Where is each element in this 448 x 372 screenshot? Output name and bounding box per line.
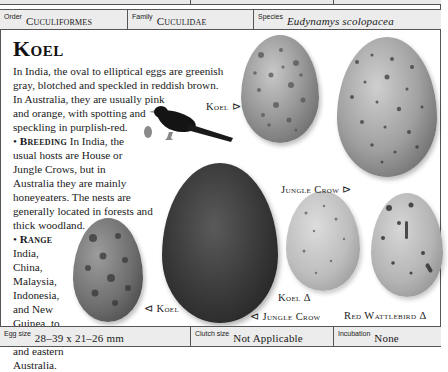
- speckle-pattern: [241, 35, 319, 143]
- speckle-pattern: [337, 37, 437, 177]
- koel-egg-bottom: [286, 191, 360, 291]
- species-label: Species: [258, 13, 283, 20]
- order-label: Order: [4, 13, 22, 20]
- speckle-pattern: [286, 191, 360, 291]
- koel-egg-top: [241, 35, 319, 143]
- text-line: gray, blotched and speckled in reddish b…: [13, 78, 273, 92]
- divider: [190, 0, 191, 5]
- breeding-heading: Breeding: [20, 135, 67, 147]
- label-koel-bottom: Koel Δ: [278, 292, 311, 303]
- label-jungle-crow-top: Jungle Crow ⊳: [281, 183, 352, 195]
- label-koel-top: Koel ⊳: [206, 100, 241, 112]
- page-title: Koel: [13, 36, 64, 62]
- order-cell: Order Cuculiformes: [0, 10, 127, 29]
- red-wattlebird-egg: [371, 193, 443, 297]
- jungle-crow-egg-top: [337, 37, 437, 177]
- clutch-size-cell: Clutch size Not Applicable: [190, 327, 333, 346]
- clutch-size-label: Clutch size: [195, 330, 229, 337]
- egg-size-label: Egg size: [4, 330, 31, 337]
- range-heading: Range: [20, 233, 53, 245]
- egg-size-value: 28–39 x 21–26 mm: [35, 332, 124, 344]
- divider: [333, 0, 334, 5]
- species-value: Eudynamys scolopacea: [287, 15, 394, 27]
- text-line: In India, the: [67, 135, 124, 147]
- species-cell: Species Eudynamys scolopacea: [253, 10, 441, 29]
- taxonomy-bar: Order Cuculiformes Family Cuculidae Spec…: [0, 9, 441, 30]
- incubation-label: Incubation: [338, 330, 370, 337]
- order-value: Cuculiformes: [26, 15, 92, 27]
- family-label: Family: [132, 13, 153, 20]
- speckle-pattern: [371, 193, 443, 297]
- egg-size-cell: Egg size 28–39 x 21–26 mm: [0, 327, 190, 346]
- text-line: Australia they are mainly: [13, 176, 183, 190]
- label-red-wattlebird: Red Wattlebird Δ: [344, 310, 427, 321]
- bullet: •: [13, 233, 17, 245]
- previous-entry-strip: [0, 0, 441, 5]
- text-line: generally located in forests and: [13, 204, 183, 218]
- small-egg-icon: [144, 126, 152, 138]
- label-koel-bottom-left: ⊲ Koel: [144, 302, 179, 314]
- family-cell: Family Cuculidae: [127, 10, 253, 29]
- text-line: honeyeaters. The nests are: [13, 190, 183, 204]
- article-content: Koel In India, the oval to elliptical eg…: [0, 30, 440, 326]
- koel-egg-bottom-left: [73, 218, 143, 322]
- text-line: In India, the oval to elliptical eggs ar…: [13, 64, 273, 78]
- family-value: Cuculidae: [157, 15, 207, 27]
- bullet: •: [13, 135, 17, 147]
- field-guide-page: Order Cuculiformes Family Cuculidae Spec…: [0, 0, 441, 347]
- speckle-pattern: [73, 218, 143, 322]
- incubation-value: None: [374, 332, 399, 344]
- text-line: Jungle Crows, but in: [13, 162, 183, 176]
- incubation-cell: Incubation None: [333, 327, 441, 346]
- label-jungle-crow-bottom: ⊲ Jungle Crow: [250, 310, 321, 322]
- egg-stats-bar: Egg size 28–39 x 21–26 mm Clutch size No…: [0, 326, 441, 347]
- text-line: Australia.: [13, 358, 83, 372]
- clutch-size-value: Not Applicable: [233, 332, 303, 344]
